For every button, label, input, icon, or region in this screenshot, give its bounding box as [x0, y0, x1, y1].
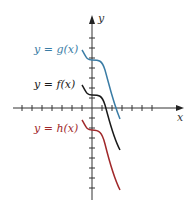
y-axis-arrow-icon [89, 15, 95, 24]
y-axis-label: y [97, 12, 105, 25]
x-axis-label: x [177, 111, 184, 124]
function-graph: y x y = g(x) y = f(x) y = h(x) [0, 0, 192, 202]
curve-h [82, 120, 120, 190]
curve-g [82, 50, 120, 119]
curve-f [82, 85, 120, 150]
label-g: y = g(x) [33, 43, 78, 56]
label-h: y = h(x) [33, 122, 78, 135]
label-f: y = f(x) [33, 78, 75, 91]
